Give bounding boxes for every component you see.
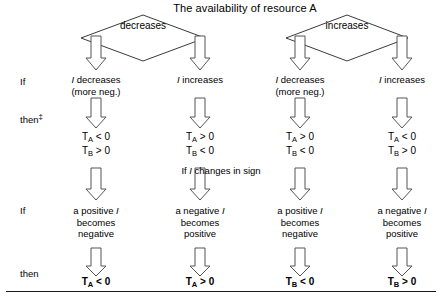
signchange-col4-line2: becomes bbox=[377, 217, 426, 229]
signchange-col3-line2: becomes bbox=[277, 217, 322, 229]
result-col1-line2-sub: B bbox=[88, 149, 93, 158]
arrow-signchange-to-final-col1 bbox=[86, 248, 106, 276]
final-result-col3-sub: B bbox=[292, 280, 297, 289]
signchange-col1-line2: becomes bbox=[73, 217, 118, 229]
condition-col4-line1: I increases bbox=[379, 74, 425, 86]
result-col4: TA < 0 TB > 0 bbox=[388, 130, 416, 158]
signchange-col4-line1: a negative I bbox=[377, 205, 426, 217]
condition-col4-line1-text: increases bbox=[382, 74, 425, 85]
arrow-result-to-signchange-col1 bbox=[86, 168, 106, 200]
arrow-diamond-to-condition-col4 bbox=[392, 36, 412, 70]
bottom-rule bbox=[6, 291, 436, 292]
result-col2-line1-relation: > 0 bbox=[200, 131, 214, 142]
variable-I: I bbox=[320, 205, 323, 216]
variable-I: I bbox=[222, 205, 225, 216]
final-result-col2: TA > 0 bbox=[186, 275, 215, 289]
mid-note-suffix: changes in sign bbox=[192, 165, 261, 176]
final-result-col4: TB > 0 bbox=[388, 275, 417, 289]
signchange-col2-line3: positive bbox=[175, 228, 224, 240]
signchange-col4-line1-pre: a negative bbox=[377, 205, 423, 216]
signchange-col2: a negative I becomes positive bbox=[175, 205, 224, 240]
result-col1-line1-relation: < 0 bbox=[96, 131, 110, 142]
variable-I: I bbox=[424, 205, 427, 216]
signchange-col1-line1-pre: a positive bbox=[73, 205, 116, 216]
mid-note-sign-change: If I changes in sign bbox=[181, 165, 260, 176]
condition-col1-line1-text: decreases bbox=[74, 74, 120, 85]
result-col4-line2-sub: B bbox=[394, 149, 399, 158]
result-col3-line2-relation: < 0 bbox=[300, 145, 314, 156]
result-col3-line2-sub: B bbox=[292, 149, 297, 158]
arrow-result-to-signchange-col4 bbox=[392, 168, 412, 200]
signchange-col4: a negative I becomes positive bbox=[377, 205, 426, 240]
result-col2-line1: TA > 0 bbox=[186, 130, 214, 144]
result-col4-line1-sub: A bbox=[394, 135, 399, 144]
result-col4-line2: TB > 0 bbox=[388, 144, 416, 158]
arrow-signchange-to-final-col3 bbox=[290, 248, 310, 276]
arrow-diamond-to-condition-col2 bbox=[190, 36, 210, 70]
result-col1-line1: TA < 0 bbox=[82, 130, 110, 144]
signchange-col3-line1-pre: a positive bbox=[277, 205, 320, 216]
condition-col1-line2: (more neg.) bbox=[71, 86, 120, 98]
arrow-condition-to-result-col1 bbox=[86, 98, 106, 128]
double-dagger-icon: ‡ bbox=[39, 112, 43, 121]
result-col1-line2: TB > 0 bbox=[82, 144, 110, 158]
result-col4-line1: TA < 0 bbox=[388, 130, 416, 144]
arrow-condition-to-result-col2 bbox=[190, 98, 210, 128]
rail-label-then-1: then‡ bbox=[20, 114, 43, 125]
final-result-col4-relation: > 0 bbox=[402, 276, 416, 287]
result-col2-line2-sub: B bbox=[192, 149, 197, 158]
result-col2-line1-sub: A bbox=[192, 135, 197, 144]
condition-col2-line1: I increases bbox=[177, 74, 223, 86]
rail-label-if-1-text: If bbox=[20, 76, 25, 87]
condition-col3-line1: I decreases bbox=[275, 74, 324, 86]
final-result-col2-sub: A bbox=[192, 280, 197, 289]
rail-label-then-2-text: then bbox=[20, 268, 39, 279]
rail-label-if-2-text: If bbox=[20, 205, 25, 216]
condition-col2: I increases bbox=[177, 74, 223, 86]
signchange-col3-line3: negative bbox=[277, 228, 322, 240]
signchange-col3-line1: a positive I bbox=[277, 205, 322, 217]
arrow-condition-to-result-col3 bbox=[290, 98, 310, 128]
arrow-signchange-to-final-col4 bbox=[392, 248, 412, 276]
condition-col3: I decreases (more neg.) bbox=[275, 74, 324, 97]
result-col4-line2-relation: > 0 bbox=[402, 145, 416, 156]
condition-col3-line1-text: decreases bbox=[278, 74, 324, 85]
diamond-increases-label: increases bbox=[307, 20, 387, 31]
result-col4-line1-relation: < 0 bbox=[402, 131, 416, 142]
condition-col1-line1: I decreases bbox=[71, 74, 120, 86]
signchange-col1-line1: a positive I bbox=[73, 205, 118, 217]
signchange-col3: a positive I becomes negative bbox=[277, 205, 322, 240]
diamond-decreases-label: decreases bbox=[103, 20, 183, 31]
signchange-col2-line2: becomes bbox=[175, 217, 224, 229]
signchange-col2-line1-pre: a negative bbox=[175, 205, 221, 216]
final-result-col1: TA < 0 bbox=[82, 275, 111, 289]
condition-col4: I increases bbox=[379, 74, 425, 86]
condition-col3-line2: (more neg.) bbox=[275, 86, 324, 98]
result-col3: TA > 0 TB < 0 bbox=[286, 130, 314, 158]
result-col2-line2: TB < 0 bbox=[186, 144, 214, 158]
result-col3-line1: TA > 0 bbox=[286, 130, 314, 144]
arrow-signchange-to-final-col2 bbox=[190, 248, 210, 276]
result-col1-line1-sub: A bbox=[88, 135, 93, 144]
signchange-col1-line3: negative bbox=[73, 228, 118, 240]
diagram-vector-layer bbox=[0, 0, 442, 300]
result-col1: TA < 0 TB > 0 bbox=[82, 130, 110, 158]
arrow-result-to-signchange-col3 bbox=[290, 168, 310, 200]
signchange-col2-line1: a negative I bbox=[175, 205, 224, 217]
condition-col1: I decreases (more neg.) bbox=[71, 74, 120, 97]
result-col2-line2-relation: < 0 bbox=[200, 145, 214, 156]
result-col3-line2: TB < 0 bbox=[286, 144, 314, 158]
result-col1-line2-relation: > 0 bbox=[96, 145, 110, 156]
result-col2: TA > 0 TB < 0 bbox=[186, 130, 214, 158]
final-result-col4-sub: B bbox=[394, 280, 399, 289]
result-col3-line1-sub: A bbox=[292, 135, 297, 144]
signchange-col1: a positive I becomes negative bbox=[73, 205, 118, 240]
flowchart-figure: The availability of resource A bbox=[0, 0, 442, 300]
rail-label-if-2: If bbox=[20, 205, 25, 216]
mid-note-prefix: If bbox=[181, 165, 189, 176]
arrow-condition-to-result-col4 bbox=[392, 98, 412, 128]
final-result-col1-sub: A bbox=[88, 280, 93, 289]
rail-label-if-1: If bbox=[20, 76, 25, 87]
signchange-col4-line3: positive bbox=[377, 228, 426, 240]
rail-label-then-1-text: then bbox=[20, 114, 39, 125]
